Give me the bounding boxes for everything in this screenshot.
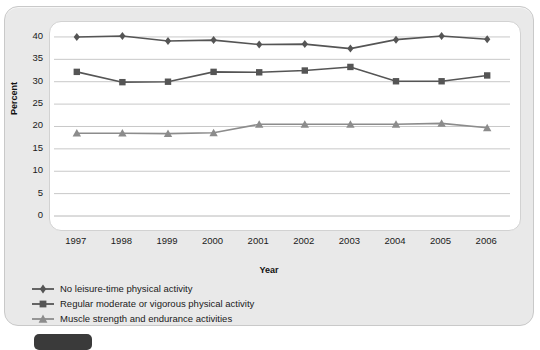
x-tick-label: 1999 <box>145 235 189 246</box>
square-marker-icon <box>256 69 262 75</box>
legend-label: Muscle strength and endurance activities <box>60 313 232 324</box>
y-tick-label: 5 <box>17 187 43 198</box>
series-line <box>77 67 487 82</box>
x-tick-label: 2006 <box>464 235 508 246</box>
y-tick-label: 25 <box>17 97 43 108</box>
legend-label: Regular moderate or vigorous physical ac… <box>60 298 254 309</box>
square-marker-icon <box>210 69 216 75</box>
square-marker-icon <box>438 78 444 84</box>
square-marker-icon <box>302 67 308 73</box>
x-tick-label: 2000 <box>191 235 235 246</box>
square-marker-icon <box>74 69 80 75</box>
diamond-marker-icon <box>74 33 80 41</box>
square-marker-icon <box>347 64 353 70</box>
square-marker-icon <box>484 72 490 78</box>
chart-legend: No leisure-time physical activityRegular… <box>31 281 254 326</box>
x-tick-label: 2002 <box>282 235 326 246</box>
series-line <box>77 36 487 49</box>
diamond-marker-icon <box>484 35 490 43</box>
chart-card: Percent 4035302520151050 199719981999200… <box>4 6 534 326</box>
diamond-marker-icon <box>256 41 262 49</box>
x-tick-label: 1998 <box>99 235 143 246</box>
x-tick-label: 2001 <box>236 235 280 246</box>
y-tick-label: 20 <box>17 119 43 130</box>
x-tick-label: 2005 <box>419 235 463 246</box>
square-marker-icon <box>393 78 399 84</box>
y-tick-label: 35 <box>17 52 43 63</box>
diamond-marker-icon <box>347 45 353 53</box>
x-tick-label: 1997 <box>54 235 98 246</box>
legend-label: No leisure-time physical activity <box>60 283 193 294</box>
square-marker-icon <box>31 298 55 310</box>
legend-item: Muscle strength and endurance activities <box>31 311 254 326</box>
square-marker-icon <box>165 79 171 85</box>
plot-area <box>49 21 521 231</box>
diamond-marker-icon <box>119 32 125 40</box>
legend-item: Regular moderate or vigorous physical ac… <box>31 296 254 311</box>
series-diamond <box>74 32 491 53</box>
legend-item: No leisure-time physical activity <box>31 281 254 296</box>
diamond-marker-icon <box>438 32 444 40</box>
y-tick-label: 15 <box>17 142 43 153</box>
series-triangle <box>73 119 492 137</box>
x-axis-title: Year <box>5 265 533 275</box>
y-tick-label: 0 <box>17 209 43 220</box>
bottom-tab-decoration <box>34 334 92 350</box>
diamond-marker-icon <box>302 40 308 48</box>
diamond-marker-icon <box>31 283 55 295</box>
chart-svg <box>50 22 520 230</box>
x-tick-label: 2004 <box>373 235 417 246</box>
x-tick-label: 2003 <box>327 235 371 246</box>
y-tick-label: 10 <box>17 164 43 175</box>
series-line <box>77 123 487 133</box>
diamond-marker-icon <box>165 37 171 45</box>
square-marker-icon <box>119 79 125 85</box>
triangle-marker-icon <box>31 313 55 325</box>
y-tick-label: 40 <box>17 30 43 41</box>
y-tick-label: 30 <box>17 75 43 86</box>
